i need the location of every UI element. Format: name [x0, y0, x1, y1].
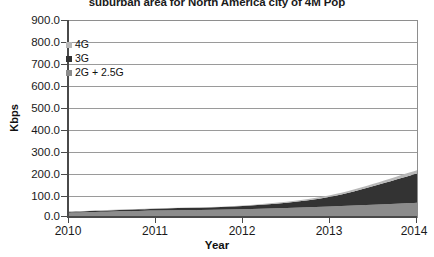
chart-legend: 4G 3G 2G + 2.5G	[66, 39, 124, 78]
legend-item-2g-25g: 2G + 2.5G	[66, 67, 124, 78]
x-axis-tick	[155, 217, 156, 223]
legend-swatch-3g-icon	[66, 56, 72, 62]
y-tick-label: 200.0	[8, 169, 60, 181]
legend-item-4g: 4G	[66, 39, 124, 50]
x-tick-label-2014: 2014	[386, 224, 434, 238]
x-tick-label-2012: 2012	[214, 224, 270, 238]
legend-swatch-2g-25g-icon	[66, 70, 72, 76]
chart-figure: suburban area for North America city of …	[0, 0, 434, 257]
x-tick-label-2011: 2011	[127, 224, 183, 238]
x-axis-title: Year	[0, 239, 434, 251]
legend-label-2g-25g: 2G + 2.5G	[75, 67, 124, 78]
legend-label-4g: 4G	[75, 39, 89, 50]
x-axis-tick	[416, 217, 417, 223]
y-tick-label: 0.0	[8, 211, 60, 223]
y-tick-label: 300.0	[8, 147, 60, 159]
y-tick-label: 800.0	[8, 37, 60, 49]
x-axis-tick	[329, 217, 330, 223]
legend-label-3g: 3G	[75, 53, 89, 64]
y-tick-label: 100.0	[8, 191, 60, 203]
x-tick-label-2013: 2013	[301, 224, 357, 238]
x-axis-tick	[68, 217, 69, 223]
y-axis-title: Kbps	[8, 88, 20, 148]
x-axis-tick	[242, 217, 243, 223]
x-tick-label-2010: 2010	[40, 224, 96, 238]
y-tick-label: 900.0	[8, 15, 60, 27]
chart-title: suburban area for North America city of …	[0, 0, 434, 8]
y-tick-label: 700.0	[8, 59, 60, 71]
legend-swatch-4g-icon	[66, 42, 72, 48]
legend-item-3g: 3G	[66, 53, 124, 64]
